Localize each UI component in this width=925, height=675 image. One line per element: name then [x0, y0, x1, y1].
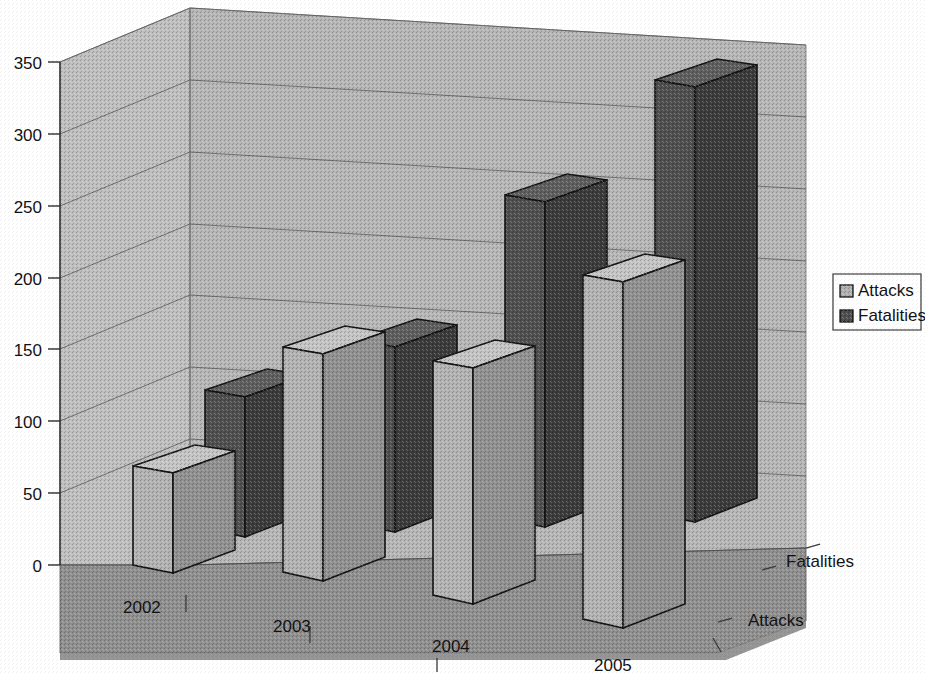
x-tick-label-2002: 2002	[123, 598, 161, 617]
bar-attacks-2004[interactable]	[433, 340, 535, 604]
bar-attacks-2002[interactable]	[133, 445, 235, 573]
x-tick-label-2005: 2005	[594, 656, 632, 675]
y-tick-label-250: 250	[14, 198, 42, 217]
y-tick-label-200: 200	[14, 270, 42, 289]
bar-attacks-2005[interactable]	[583, 254, 685, 628]
chart-figure: 350 300 250 200 150 100 50 0	[0, 0, 925, 675]
x-tick-label-2004: 2004	[432, 637, 470, 656]
bar-chart-3d: 350 300 250 200 150 100 50 0	[0, 0, 925, 675]
y-tick-label-100: 100	[14, 413, 42, 432]
bar-attacks-2003[interactable]	[283, 326, 385, 581]
y-axis: 350 300 250 200 150 100 50 0	[14, 54, 60, 576]
y-tick-marks	[48, 62, 60, 565]
y-tick-label-300: 300	[14, 126, 42, 145]
legend-label-attacks: Attacks	[858, 281, 914, 300]
y-tick-label-150: 150	[14, 341, 42, 360]
legend-label-fatalities: Fatalities	[858, 306, 925, 325]
y-tick-label-350: 350	[14, 54, 42, 73]
y-tick-label-50: 50	[23, 485, 42, 504]
z-tick-label-attacks: Attacks	[748, 611, 804, 630]
legend: Attacks Fatalities	[833, 274, 925, 330]
x-tick-label-2003: 2003	[273, 617, 311, 636]
y-tick-label-0: 0	[33, 557, 42, 576]
z-tick-label-fatalities: Fatalities	[786, 552, 854, 571]
